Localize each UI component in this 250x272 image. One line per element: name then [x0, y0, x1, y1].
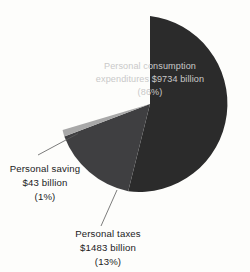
slice-label-taxes-line2: $1483 billion — [80, 242, 136, 253]
pie-chart: Personal consumption expenditures $9734 … — [0, 0, 250, 272]
slice-label-taxes-line3: (13%) — [95, 256, 121, 267]
slice-label-taxes-line1: Personal taxes — [75, 228, 141, 239]
slice-label-consumption-line1: Personal consumption — [104, 61, 196, 71]
pie-chart-canvas: Personal consumption expenditures $9734 … — [0, 0, 250, 272]
slice-label-consumption-line2: expenditures $9734 billion — [96, 74, 204, 84]
slice-label-saving-line2: $43 billion — [23, 177, 68, 188]
slice-label-saving-line3: (1%) — [35, 191, 56, 202]
slice-label-saving-line1: Personal saving — [10, 163, 81, 174]
slice-label-consumption-line3: (86%) — [138, 87, 163, 97]
